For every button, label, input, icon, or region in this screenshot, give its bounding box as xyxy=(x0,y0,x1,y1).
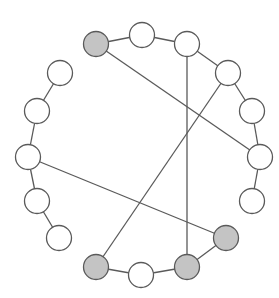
graph-node xyxy=(240,189,265,214)
graph-node xyxy=(240,99,265,124)
highlighted-node xyxy=(214,226,239,251)
graph-node xyxy=(25,189,50,214)
graph-node xyxy=(248,145,273,170)
graph-node xyxy=(48,61,73,86)
graph-node xyxy=(216,61,241,86)
nodes-layer xyxy=(16,23,273,288)
chord-edge xyxy=(96,73,228,267)
circular-graph-diagram xyxy=(0,0,279,298)
highlighted-node xyxy=(175,255,200,280)
graph-node xyxy=(129,263,154,288)
highlighted-node xyxy=(84,255,109,280)
graph-node xyxy=(16,145,41,170)
highlighted-node xyxy=(84,32,109,57)
chord-edge xyxy=(96,44,260,157)
graph-node xyxy=(47,226,72,251)
graph-node xyxy=(130,23,155,48)
graph-node xyxy=(175,32,200,57)
graph-node xyxy=(25,99,50,124)
